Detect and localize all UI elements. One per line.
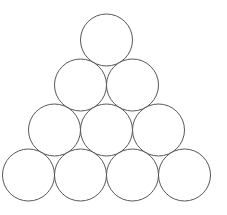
circle-r3c3 bbox=[133, 104, 185, 156]
circle-r4c3 bbox=[107, 149, 159, 201]
circle-r4c4 bbox=[159, 149, 211, 201]
circle-r2c1 bbox=[55, 59, 107, 111]
circle-r3c1 bbox=[29, 104, 81, 156]
circle-packing-canvas bbox=[0, 0, 227, 215]
circle-r4c2 bbox=[55, 149, 107, 201]
circle-r4c1 bbox=[3, 149, 55, 201]
circle-r1c1 bbox=[81, 14, 133, 66]
circle-r2c2 bbox=[107, 59, 159, 111]
circle-packing-figure bbox=[0, 0, 227, 215]
circle-r3c2 bbox=[81, 104, 133, 156]
